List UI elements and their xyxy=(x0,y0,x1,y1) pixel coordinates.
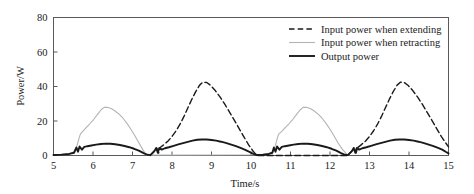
x-tick-label: 12 xyxy=(325,160,336,171)
power-vs-time-chart: 020406080 56789101112131415 Time/s Power… xyxy=(0,0,474,194)
x-tick-label: 10 xyxy=(246,160,257,171)
x-axis-tick-labels: 56789101112131415 xyxy=(51,160,454,171)
x-tick-label: 7 xyxy=(130,160,135,171)
y-tick-label: 40 xyxy=(37,81,48,92)
x-tick-label: 6 xyxy=(90,160,95,171)
x-tick-label: 15 xyxy=(443,160,454,171)
x-tick-label: 11 xyxy=(285,160,295,171)
legend-label-2: Output power xyxy=(321,51,380,62)
legend-label-1: Input power when retracting xyxy=(321,37,441,48)
y-tick-label: 20 xyxy=(37,116,48,127)
x-tick-label: 5 xyxy=(51,160,56,171)
y-tick-label: 0 xyxy=(42,150,47,161)
x-tick-label: 14 xyxy=(404,160,415,171)
x-tick-label: 9 xyxy=(209,160,214,171)
y-axis-title: Power/W xyxy=(15,66,26,106)
y-tick-label: 80 xyxy=(37,12,48,23)
x-tick-label: 8 xyxy=(169,160,174,171)
chart-canvas: 020406080 56789101112131415 Time/s Power… xyxy=(0,0,474,194)
x-tick-label: 13 xyxy=(364,160,375,171)
x-axis-title: Time/s xyxy=(231,178,260,189)
y-tick-label: 60 xyxy=(37,47,48,58)
legend-label-0: Input power when extending xyxy=(321,24,442,35)
y-axis-tick-labels: 020406080 xyxy=(37,12,48,161)
